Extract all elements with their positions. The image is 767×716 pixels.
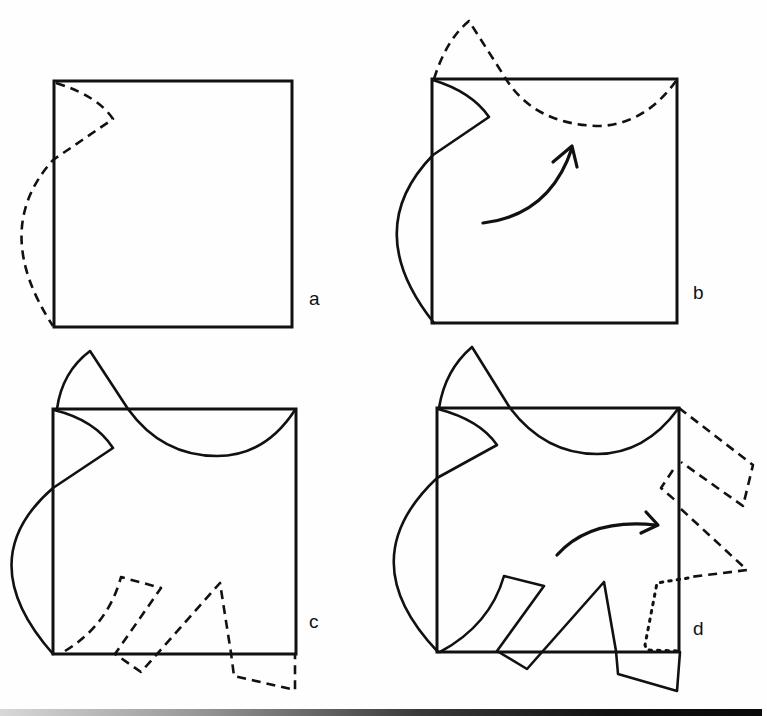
panel-d-bottom-edge-cut: [440, 576, 680, 691]
panel-a-square: [54, 81, 292, 327]
page-edge-shadow: [0, 709, 762, 716]
panel-d-top-edge-cut: [439, 347, 678, 454]
panel-d-right-dashed-notch: [661, 470, 676, 501]
figure-canvas: a b c d: [0, 0, 767, 716]
panel-c-bottom-dashed-cut: [65, 577, 295, 690]
panel-a-label: a: [309, 289, 320, 308]
panel-d-right-dashed-upper: [679, 408, 753, 506]
panel-c-left-edge-cut: [12, 410, 114, 654]
panel-d: [394, 347, 753, 691]
tessellation-diagram: [0, 0, 767, 716]
panel-b-label: b: [693, 283, 704, 302]
curved-arrow-icon: [557, 512, 658, 555]
panel-d-left-edge-cut: [394, 409, 497, 652]
panel-d-dotted-outline: [645, 578, 688, 651]
panel-a-dashed-cut-line: [22, 83, 114, 326]
curved-arrow-icon: [483, 146, 577, 223]
panel-d-right-dashed-lower: [681, 509, 747, 577]
panel-a: [22, 81, 293, 327]
panel-d-label: d: [693, 619, 704, 638]
panel-b-left-edge-cut: [397, 80, 489, 323]
panel-c-label: c: [309, 612, 319, 631]
panel-b-top-dashed-transfer: [434, 21, 676, 126]
panel-c-top-edge-cut: [57, 351, 295, 456]
panel-b: [397, 21, 677, 323]
panel-d-square: [437, 408, 679, 652]
panel-c: [12, 351, 297, 690]
